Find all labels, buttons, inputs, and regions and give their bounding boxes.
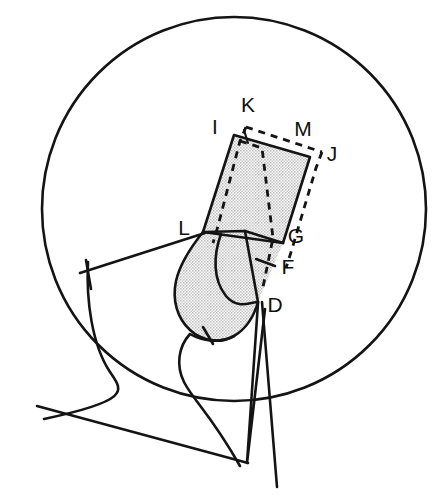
narrow-wedge-below-d — [247, 303, 265, 463]
figure-root: K I M J L G F D — [0, 0, 446, 501]
label-I: I — [212, 115, 218, 138]
label-G: G — [288, 224, 304, 247]
label-F: F — [282, 255, 295, 278]
label-L: L — [178, 216, 190, 239]
label-K: K — [241, 93, 255, 116]
geometry-diagram: K I M J L G F D — [0, 0, 446, 501]
label-J: J — [327, 142, 338, 165]
label-D: D — [267, 293, 282, 316]
wedge-right-long-line — [262, 302, 277, 487]
bottom-left-diagonal — [37, 406, 248, 463]
s-curve-lower-left — [44, 262, 118, 419]
label-M: M — [294, 117, 312, 140]
